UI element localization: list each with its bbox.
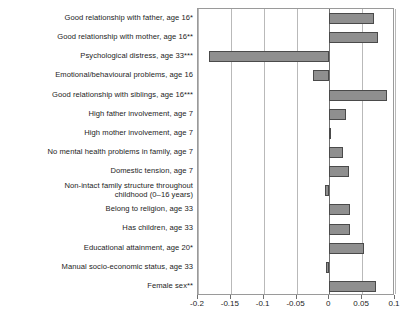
bar [329,147,343,158]
category-label: Belong to religion, age 33 [0,204,193,213]
bar [329,204,350,215]
bar [329,128,331,139]
bar [329,166,348,177]
x-tick-label: -0.05 [286,299,304,309]
bar [329,224,350,235]
category-label: Has children, age 33 [0,223,193,232]
category-label: Educational attainment, age 20* [0,243,193,252]
category-label: Good relationship with siblings, age 16*… [0,90,193,99]
x-axis: -0.2-0.15-0.1-0.0500.050.1 [197,295,394,301]
bar [325,185,329,196]
plot-area [197,8,394,295]
bar [326,262,330,273]
category-label: Good relationship with father, age 16* [0,13,193,22]
category-label: Manual socio-economic status, age 33 [0,262,193,271]
category-label: High mother involvement, age 7 [0,128,193,137]
category-label: Emotional/behavioural problems, age 16 [0,70,193,79]
bar [329,109,346,120]
bar [209,51,329,62]
category-label: Non-intact family structure throughout c… [0,181,193,199]
x-tick-label: 0 [326,299,330,309]
gridline [395,9,396,294]
bar [329,243,364,254]
x-tick-label: 0.05 [353,299,369,309]
x-tick-label: -0.15 [221,299,239,309]
category-label: No mental health problems in family, age… [0,147,193,156]
bar [313,70,330,81]
category-labels-column: Good relationship with father, age 16*Go… [0,0,193,331]
category-label: Good relationship with mother, age 16** [0,32,193,41]
x-tick-label: 0.1 [388,299,399,309]
bar [329,13,374,24]
category-label: Female sex** [0,281,193,290]
x-tick-label: -0.1 [256,299,270,309]
category-label: High father involvement, age 7 [0,109,193,118]
gridline [198,9,199,294]
bar [329,32,377,43]
x-tick-label: -0.2 [190,299,204,309]
category-label: Domestic tension, age 7 [0,166,193,175]
bar [329,281,375,292]
bar [329,90,387,101]
horizontal-bar-chart: Good relationship with father, age 16*Go… [0,0,414,331]
category-label: Psychological distress, age 33*** [0,51,193,60]
